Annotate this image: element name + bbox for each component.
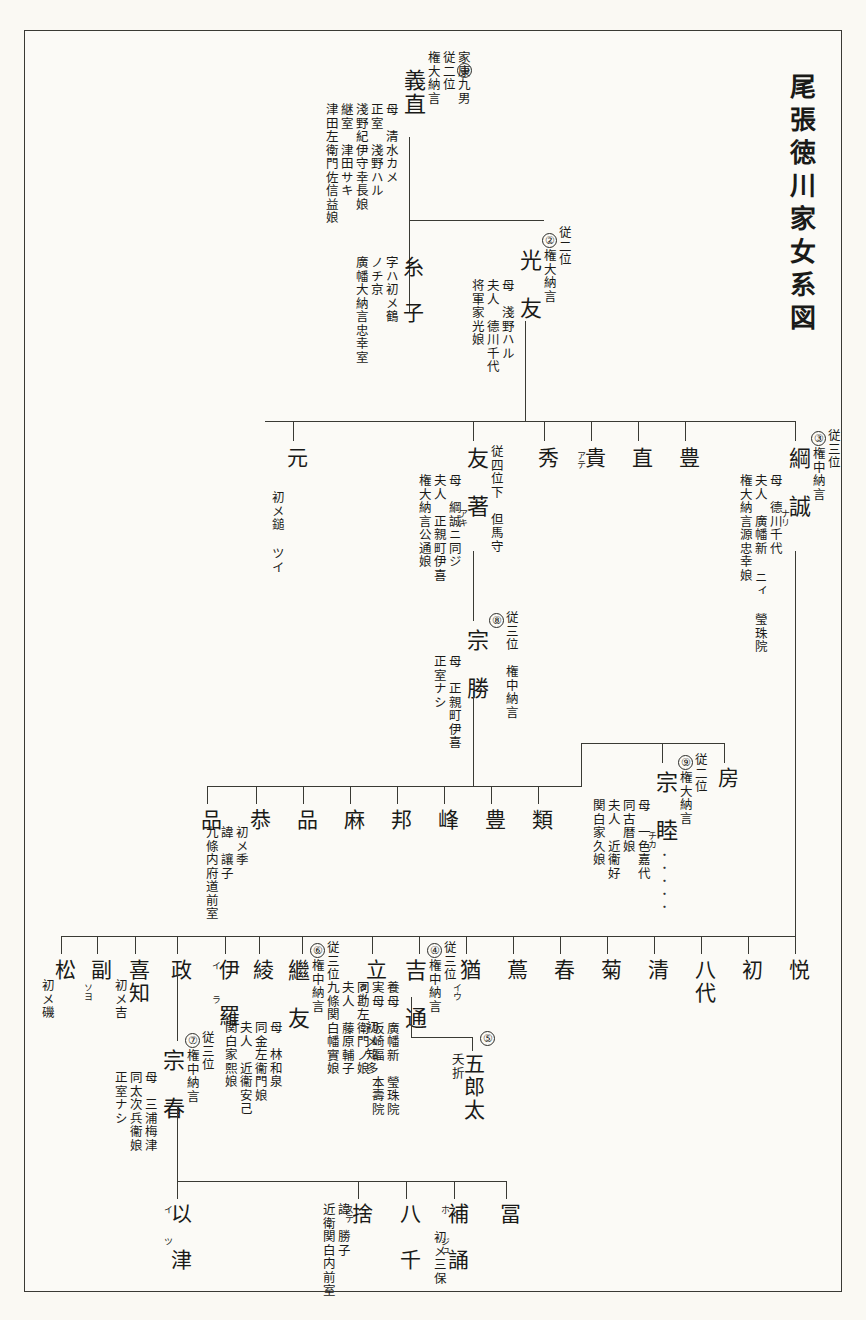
person-kiku[interactable]: 菊: [599, 959, 620, 982]
munechika-rank-2: 権大納言: [677, 771, 691, 825]
connector-munekatsu-down: [473, 691, 474, 786]
person-rui[interactable]: 類: [530, 809, 551, 832]
person-asa[interactable]: 麻: [342, 809, 363, 832]
mitsutomo-detail-2: 夫人 德川千代: [484, 279, 498, 374]
person-kiyo[interactable]: 清: [646, 959, 667, 982]
stub-yuu: [466, 936, 467, 954]
person-tomi[interactable]: 冨: [498, 1203, 519, 1226]
stub-tsunanari: [795, 421, 796, 441]
person-itoko[interactable]: 糸 子: [401, 256, 422, 325]
munechika-rank-1: 従二位: [692, 753, 706, 794]
person-yashiro[interactable]: 八代: [693, 959, 714, 1005]
stub-hide: [544, 421, 545, 441]
yoshinao-detail-1: 母 清水カメ: [383, 103, 397, 184]
person-fusa[interactable]: 房: [716, 767, 737, 790]
person-etsu[interactable]: 悦: [787, 959, 808, 982]
person-number-5: ⑤: [480, 1031, 495, 1046]
person-gen3-ate-kana: アテ: [576, 451, 585, 469]
yoshimichi-detail-4: 夫人 藤原輔子: [339, 981, 353, 1076]
stub-hoju: [454, 1181, 455, 1199]
person-soyo[interactable]: 副: [89, 959, 110, 982]
stub-tatsu: [372, 936, 373, 954]
stub-moto: [293, 421, 294, 441]
person-hatsu[interactable]: 初: [740, 959, 761, 982]
stub-yutaka: [685, 421, 686, 441]
person-gen3-nao[interactable]: 直: [630, 447, 651, 470]
stub-nao: [638, 421, 639, 441]
tsugutomo-detail-1: 母 林和泉: [267, 1021, 281, 1089]
stub-shina-1: [303, 786, 304, 804]
person-shina-1[interactable]: 品: [295, 809, 316, 832]
itoko-detail-1: 字ハ初メ鶴: [383, 256, 397, 324]
person-masa[interactable]: 政: [169, 959, 190, 982]
connector-gen5-bus: [61, 936, 796, 937]
stub-masa: [177, 936, 178, 954]
person-gen4-yutaka[interactable]: 豊: [483, 809, 504, 832]
connector-muneharu-down: [177, 1106, 178, 1181]
connector-gen4-bus: [207, 786, 582, 787]
stub-matsu: [61, 936, 62, 954]
chart-frame: 尾張徳川家女系図 ① 家康九男 従二位 権大納言 義直 母 清水カメ 正室 淺野…: [24, 30, 842, 1292]
person-munekatsu[interactable]: 宗 勝: [464, 629, 486, 701]
yoshinao-detail-3: 淺野紀伊守幸長娘: [353, 103, 367, 211]
tsugutomo-detail-4: 関白家熙娘: [222, 1021, 236, 1089]
person-gen3-moto[interactable]: 元: [285, 447, 306, 470]
connector-gen4-right-bus: [581, 743, 725, 744]
person-goroota[interactable]: 五郎太: [462, 1053, 483, 1122]
connector-tsunanari-down: [795, 551, 796, 936]
stub-kichi: [135, 936, 136, 954]
mitsutomo-detail-1: 母 淺野ハル: [499, 279, 513, 360]
tsunanari-rank-1: 従三位: [825, 429, 839, 470]
yoshimichi-detail-5: 九條関白幡實娘: [324, 981, 338, 1076]
connector-yoshimichi-to-goroota: [411, 1037, 473, 1038]
person-gen3-yutaka[interactable]: 豊: [677, 447, 698, 470]
person-yuu[interactable]: 猶: [458, 959, 479, 982]
stub-fusa: [724, 743, 725, 763]
person-kuni[interactable]: 邦: [389, 809, 410, 832]
person-matsu[interactable]: 松: [53, 959, 74, 982]
stub-hatsu: [748, 936, 749, 954]
person-kyo[interactable]: 恭: [248, 809, 269, 832]
person-tsugutomo[interactable]: 繼 友: [285, 959, 307, 1031]
person-shina-2[interactable]: 品: [199, 809, 220, 832]
person-tatsu-kana: タツ: [358, 983, 367, 1001]
person-mine[interactable]: 峰: [436, 809, 457, 832]
person-aya[interactable]: 綾: [251, 959, 272, 982]
tomoaki-detail-2: 夫人 正親町伊喜: [431, 474, 445, 582]
person-gen3-ate[interactable]: 貴: [583, 447, 604, 470]
connector-gen4-right-riser: [581, 743, 582, 787]
yoshinao-rank-line-2: 従二位: [440, 51, 454, 92]
connector-masa-to-muneharu: [177, 971, 178, 1041]
munechika-detail-3: 夫人 近衞好: [605, 799, 619, 880]
itoko-detail-2: ノチ京: [368, 256, 382, 297]
munechika-detail-1: 母 一色嘉代: [635, 799, 649, 880]
page-title: 尾張徳川家女系図: [782, 73, 819, 337]
person-itsu-kana-top: イ: [163, 1205, 172, 1214]
person-gen3-hide[interactable]: 秀: [536, 447, 557, 470]
person-yoshimichi[interactable]: 吉 通: [402, 959, 424, 1031]
mitsutomo-rank-2: 権大納言: [541, 249, 555, 303]
person-tatsu[interactable]: 立: [364, 959, 385, 982]
connector-gen3-bus: [265, 421, 795, 422]
kyo-detail-2: 諱 讓子: [218, 826, 232, 880]
person-yoshinao[interactable]: 義直: [401, 69, 423, 117]
tatsu-detail: 初メ知多: [363, 1021, 377, 1075]
yoshinao-rank-line-1: 家康九男: [455, 51, 469, 105]
connector-mitsutomo-down: [525, 321, 526, 421]
person-yachi[interactable]: 八 千: [398, 1203, 419, 1272]
itoko-detail-3: 廣幡大納言忠幸室: [353, 256, 367, 364]
person-number-2: ②: [542, 233, 557, 248]
munechika-detail-4: 関白家久娘: [590, 799, 604, 867]
person-kichi[interactable]: 喜知: [127, 959, 148, 1005]
yoshimichi-detail-1: 養母 廣幡新 瑩珠院: [384, 981, 398, 1116]
person-haru[interactable]: 春: [552, 959, 573, 982]
person-tsuta[interactable]: 蔦: [505, 959, 526, 982]
muneharu-rank-1: 従三位: [199, 1031, 213, 1072]
person-muneharu[interactable]: 宗 春: [160, 1049, 182, 1121]
yoshinao-detail-4: 継室 津田サキ: [338, 103, 352, 198]
munechika-continuation-dots: ・・・・・: [655, 849, 671, 914]
person-mitsutomo[interactable]: 光 友: [517, 249, 539, 321]
stub-goroota: [472, 1037, 473, 1051]
muneharu-detail-1: 母 三浦梅津: [142, 1071, 156, 1152]
stub-sute: [358, 1181, 359, 1199]
